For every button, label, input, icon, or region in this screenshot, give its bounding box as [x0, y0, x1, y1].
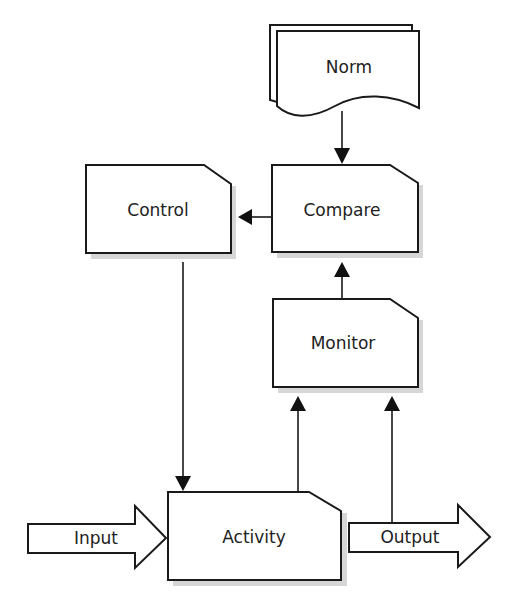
control-loop-diagram: Norm Compare Control Monitor — [0, 0, 510, 602]
arrow-norm-to-compare — [334, 111, 350, 164]
norm-label: Norm — [326, 57, 372, 77]
arrow-control-to-activity — [175, 262, 191, 491]
arrow-activity-to-monitor — [290, 396, 306, 492]
control-node: Control — [86, 165, 236, 259]
output-arrow: Output — [349, 505, 490, 567]
activity-label: Activity — [222, 527, 286, 547]
input-label: Input — [74, 528, 118, 548]
arrow-compare-to-control — [238, 209, 272, 225]
activity-node: Activity — [168, 492, 347, 586]
monitor-node: Monitor — [273, 299, 423, 393]
input-arrow: Input — [28, 506, 166, 568]
arrow-output-to-monitor — [384, 396, 400, 523]
control-label: Control — [127, 200, 188, 220]
output-label: Output — [380, 527, 439, 547]
norm-document: Norm — [270, 25, 419, 116]
compare-node: Compare — [272, 165, 423, 258]
monitor-label: Monitor — [311, 333, 376, 353]
compare-label: Compare — [303, 200, 380, 220]
arrow-monitor-to-compare — [334, 262, 350, 299]
